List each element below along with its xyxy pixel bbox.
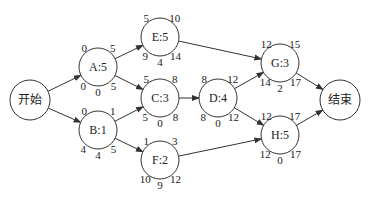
earliest-start: 0 (82, 42, 88, 54)
earliest-finish: 3 (172, 135, 178, 147)
total-float: 2 (277, 82, 283, 94)
node-label: B:1 (89, 123, 106, 137)
earliest-finish: 5 (110, 42, 116, 54)
node-D: D:48128012 (199, 73, 239, 129)
edge-A-E (115, 45, 143, 58)
latest-finish: 5 (111, 80, 117, 92)
total-float: 4 (157, 56, 163, 68)
latest-finish: 17 (290, 148, 302, 160)
node-F: F:21310912 (140, 135, 181, 191)
nodes-layer: 开始A:505005B:101445E:55109414C:358508F:21… (10, 12, 360, 191)
earliest-start: 12 (261, 110, 272, 122)
earliest-start: 0 (82, 105, 88, 117)
latest-start: 8 (200, 111, 206, 123)
node-label: 结束 (328, 93, 352, 107)
latest-start: 5 (142, 111, 148, 123)
node-label: D:4 (209, 91, 227, 105)
latest-start: 10 (140, 173, 152, 185)
earliest-start: 1 (144, 135, 150, 147)
earliest-start: 5 (144, 12, 150, 24)
latest-finish: 12 (170, 173, 181, 185)
edge-F-H (179, 139, 262, 156)
edge-E-G (179, 41, 262, 59)
latest-finish: 17 (290, 76, 302, 88)
latest-finish: 14 (170, 50, 182, 62)
latest-start: 14 (260, 76, 272, 88)
node-B: B:101445 (79, 105, 117, 161)
node-end: 结束 (320, 80, 360, 120)
edge-start-A (48, 75, 81, 91)
latest-finish: 5 (111, 143, 117, 155)
earliest-finish: 10 (169, 12, 181, 24)
node-label: C:3 (151, 91, 168, 105)
earliest-start: 5 (144, 73, 150, 85)
earliest-finish: 12 (227, 73, 238, 85)
node-label: E:5 (152, 30, 169, 44)
latest-start: 12 (260, 148, 271, 160)
node-E: E:55109414 (141, 12, 182, 68)
edge-A-C (115, 75, 143, 89)
total-float: 0 (95, 86, 101, 98)
node-label: G:3 (271, 56, 289, 70)
earliest-finish: 8 (172, 73, 178, 85)
earliest-finish: 17 (289, 110, 301, 122)
node-start: 开始 (10, 80, 50, 120)
node-G: G:3121514217 (260, 38, 302, 94)
total-float: 0 (157, 117, 163, 129)
edge-start-B (48, 108, 80, 122)
node-C: C:358508 (141, 73, 179, 129)
edge-B-C (115, 107, 143, 122)
total-float: 0 (277, 154, 283, 166)
edge-B-F (115, 138, 143, 151)
node-label: F:2 (152, 153, 168, 167)
node-A: A:505005 (79, 42, 117, 98)
node-label: A:5 (89, 60, 107, 74)
total-float: 4 (95, 149, 101, 161)
earliest-finish: 1 (110, 105, 116, 117)
earliest-finish: 15 (289, 38, 301, 50)
node-label: 开始 (18, 93, 42, 107)
latest-start: 0 (80, 80, 86, 92)
latest-finish: 8 (173, 111, 179, 123)
activity-network-diagram: 开始A:505005B:101445E:55109414C:358508F:21… (0, 0, 376, 199)
total-float: 9 (157, 179, 163, 191)
total-float: 0 (215, 117, 221, 129)
latest-start: 9 (142, 50, 148, 62)
edge-H-end (296, 110, 322, 125)
latest-finish: 12 (228, 111, 239, 123)
earliest-start: 8 (202, 73, 208, 85)
node-label: H:5 (271, 128, 289, 142)
node-H: H:5121712017 (260, 110, 302, 166)
latest-start: 4 (80, 143, 86, 155)
earliest-start: 12 (261, 38, 272, 50)
